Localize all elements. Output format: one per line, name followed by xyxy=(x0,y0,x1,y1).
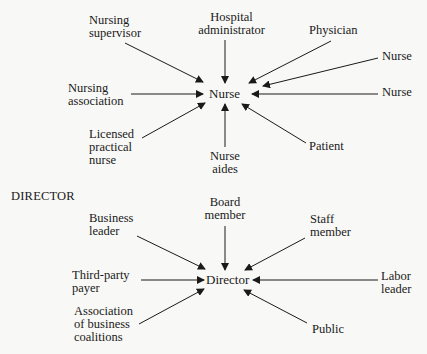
node-association-of-business-coalitions: Association of business coalitions xyxy=(74,305,133,344)
node-hospital-administrator: Hospital administrator xyxy=(194,11,269,37)
arrow-nursing-supervisor xyxy=(125,43,203,82)
node-public: Public xyxy=(312,323,344,336)
arrow-patient xyxy=(242,104,306,143)
arrow-association-of-business-coalitions xyxy=(139,289,204,324)
node-licensed-practical-nurse: Licensed practical nurse xyxy=(89,128,134,167)
node-patient: Patient xyxy=(309,140,344,153)
arrow-business-leader xyxy=(137,236,205,269)
arrow-physician xyxy=(249,41,331,83)
node-business-leader: Business leader xyxy=(89,212,133,238)
arrow-public xyxy=(244,290,307,323)
center-director: Director xyxy=(206,273,249,287)
node-labor-leader: Labor leader xyxy=(381,270,412,296)
role-set-diagram: Nursing supervisor Hospital administrato… xyxy=(0,0,427,354)
arrow-licensed-practical-nurse xyxy=(142,103,205,138)
node-nursing-association: Nursing association xyxy=(68,82,124,108)
center-nurse: Nurse xyxy=(209,87,240,101)
node-third-party-payer: Third-party payer xyxy=(72,269,130,295)
node-staff-member: Staff member xyxy=(310,213,351,239)
node-nursing-supervisor: Nursing supervisor xyxy=(89,14,141,40)
section-heading-director: DIRECTOR xyxy=(11,189,75,204)
arrow-nurse-upper-right xyxy=(263,58,378,86)
node-physician: Physician xyxy=(309,24,358,37)
arrow-staff-member xyxy=(245,238,305,270)
node-nurse-aides: Nurse aides xyxy=(205,150,245,176)
arrows-layer xyxy=(0,0,427,354)
node-nurse-upper-right: Nurse xyxy=(382,50,412,63)
node-nurse-right: Nurse xyxy=(382,86,412,99)
node-board-member: Board member xyxy=(202,196,248,222)
